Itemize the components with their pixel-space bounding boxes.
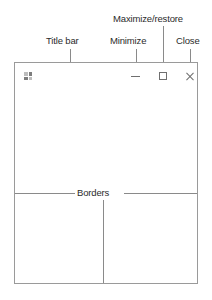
callout-label-borders: Borders [77,187,109,198]
leader-line-maximize-restore [163,26,164,62]
leader-line-minimize [136,49,137,62]
callout-label-close: Close [176,35,200,46]
callout-label-title-bar: Title bar [46,35,79,46]
window-anatomy-diagram: Maximize/restore Title bar Minimize Clos… [0,0,212,300]
callout-label-maximize-restore: Maximize/restore [113,13,183,24]
leader-line-borders-left [15,193,75,194]
window-frame [14,62,198,284]
maximize-square-icon[interactable] [159,72,167,80]
leader-line-title-bar [70,49,71,62]
app-grid-icon [24,72,32,80]
callout-label-minimize: Minimize [110,35,146,46]
minimize-dash-icon[interactable] [131,76,140,77]
leader-line-close [190,49,191,62]
leader-line-borders-right [124,193,197,194]
close-x-icon[interactable] [185,71,195,81]
window-client-area [15,63,197,283]
leader-line-borders-bottom [103,200,104,283]
